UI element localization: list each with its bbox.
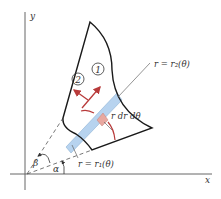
x-axis-label: x [205,175,210,185]
outer-curve-label: r = r₂(θ) [154,59,190,69]
step2-label: 2 [74,75,81,85]
polar-region-diagram: 1 2 y x r = r₂(θ) r dr dθ r = r₁(θ) α β [0,0,221,199]
r2-leader [118,63,150,97]
step1-label: 1 [95,65,101,75]
inner-curve-label: r = r₁(θ) [78,159,114,169]
alpha-label: α [53,164,59,174]
arrow-sweep-top [81,110,94,113]
y-axis-label: y [29,11,36,21]
region-outline [63,22,152,150]
beta-arc [38,154,50,163]
alpha-arc [62,161,64,174]
arrow-step2 [74,90,88,100]
element-label: r dr dθ [111,111,141,121]
beta-label: β [32,158,38,168]
integration-strip [66,93,122,153]
arrow-sweep [108,122,115,140]
